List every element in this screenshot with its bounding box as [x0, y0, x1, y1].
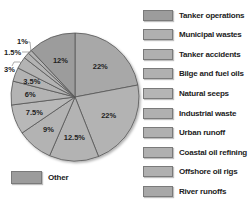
- legend-swatch: [143, 68, 173, 79]
- slice-label: 7.5%: [26, 108, 43, 117]
- slice-label-outside: 3%: [4, 65, 15, 74]
- legend-item: Industrial waste: [143, 107, 236, 119]
- legend-label: Coastal oil refining: [179, 148, 247, 157]
- legend-item: Natural seeps: [143, 87, 229, 99]
- legend-item: Urban runoff: [143, 127, 225, 139]
- legend-item: Coastal oil refining: [143, 146, 247, 158]
- legend-label: River runoffs: [179, 187, 226, 196]
- slice-label: 6%: [25, 90, 36, 99]
- legend-swatch-other: [11, 171, 42, 184]
- legend-item: Offshore oil rigs: [143, 166, 237, 178]
- legend-item: Tanker operations: [143, 9, 244, 21]
- legend-item: River runoffs: [143, 185, 226, 197]
- legend-swatch: [143, 108, 173, 119]
- legend-label: Natural seeps: [179, 89, 229, 98]
- legend-swatch: [143, 49, 173, 60]
- legend-label: Tanker accidents: [179, 50, 241, 59]
- slice-label: 3.5%: [23, 77, 40, 86]
- legend-label-other: Other: [48, 173, 68, 182]
- legend-label: Offshore oil rigs: [179, 167, 237, 176]
- legend-label: Bilge and fuel oils: [179, 69, 244, 78]
- legend-label: Municipal wastes: [179, 30, 242, 39]
- legend-swatch: [143, 10, 173, 21]
- legend-swatch: [143, 186, 173, 197]
- legend-label: Tanker operations: [179, 11, 244, 20]
- legend-label: Industrial waste: [179, 109, 236, 118]
- legend-swatch: [143, 166, 173, 177]
- legend-item: Bilge and fuel oils: [143, 68, 244, 80]
- legend-item: Municipal wastes: [143, 29, 242, 41]
- slice-label: 9%: [43, 125, 54, 134]
- slice-label: 22%: [101, 111, 116, 120]
- slice-label-outside: 1.5%: [4, 48, 21, 57]
- legend-swatch: [143, 147, 173, 158]
- legend-swatch: [143, 88, 173, 99]
- slice-label: 22%: [93, 62, 108, 71]
- legend-item: Tanker accidents: [143, 48, 241, 60]
- slice-label-outside: 1%: [17, 37, 28, 46]
- slice-label: 12%: [53, 56, 68, 65]
- legend-label: Urban runoff: [179, 128, 225, 137]
- legend-item-other: Other: [11, 171, 68, 184]
- legend-swatch: [143, 29, 173, 40]
- legend-swatch: [143, 127, 173, 138]
- slice-label: 12.5%: [64, 133, 86, 142]
